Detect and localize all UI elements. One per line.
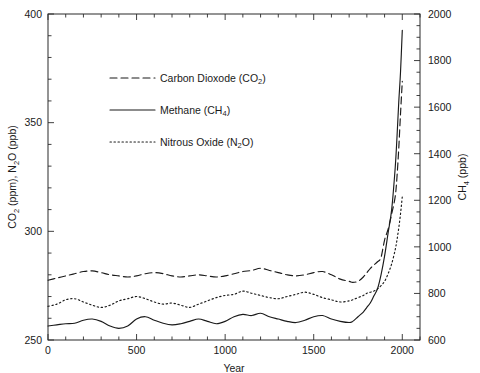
y-right-tick-label: 600 (428, 334, 446, 346)
y-right-tick-label: 1400 (428, 148, 452, 160)
y-right-tick-label: 1000 (428, 241, 452, 253)
y-left-tick-label: 250 (24, 334, 42, 346)
figure-container: 0500100015002000250300350400600800100012… (0, 0, 480, 373)
y-right-tick-label: 2000 (428, 8, 452, 20)
greenhouse-gas-line-chart: 0500100015002000250300350400600800100012… (0, 0, 480, 373)
x-tick-label: 1000 (213, 344, 237, 356)
y-left-tick-label: 300 (24, 225, 42, 237)
x-tick-label: 500 (128, 344, 146, 356)
y-right-tick-label: 800 (428, 287, 446, 299)
y-right-tick-label: 1800 (428, 54, 452, 66)
chart-background (0, 0, 480, 373)
y-right-tick-label: 1600 (428, 101, 452, 113)
y-left-tick-label: 400 (24, 8, 42, 20)
y-left-tick-label: 350 (24, 116, 42, 128)
x-axis-title: Year (223, 362, 245, 373)
x-tick-label: 2000 (391, 344, 415, 356)
y-right-tick-label: 1200 (428, 194, 452, 206)
x-tick-label: 1500 (302, 344, 326, 356)
x-tick-label: 0 (45, 344, 51, 356)
